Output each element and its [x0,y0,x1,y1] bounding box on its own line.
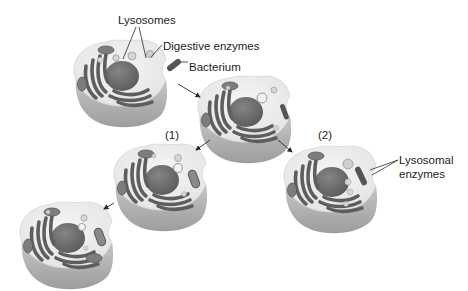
cell-engulfing [198,76,291,163]
label-bacterium: Bacterium [189,61,241,74]
label-lysosomes: Lysosomes [118,14,176,27]
cell-final [20,202,113,289]
label-lysosomal-enzymes-line1: Lysosomal [399,154,454,167]
label-step-2: (2) [318,129,332,142]
label-step-1: (1) [165,129,179,142]
cell-step1 [114,144,207,231]
cell-step2 [284,146,377,233]
label-lysosomal-enzymes-line2: enzymes [399,168,445,181]
lysosome-diagram: Lysosomes Digestive enzymes Bacterium (1… [0,0,468,291]
bacterium-shape [166,58,182,73]
cell-initial [74,40,167,127]
label-digestive-enzymes: Digestive enzymes [163,40,260,53]
